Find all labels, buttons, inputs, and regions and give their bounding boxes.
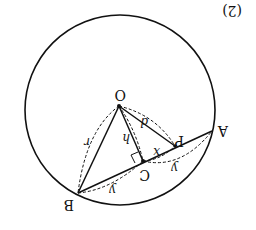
circle-chord-diagram: O A B C P r h d x y y (2) [0, 0, 256, 230]
label-p: P [175, 133, 184, 149]
label-d: d [140, 115, 148, 129]
label-h: h [122, 131, 130, 145]
label-y-bc: y [109, 183, 117, 197]
label-o: O [115, 87, 126, 103]
point-c [141, 159, 145, 163]
label-r: r [83, 135, 90, 149]
figure-number: (2) [222, 3, 242, 19]
label-y-ca: y [171, 161, 179, 175]
label-b: B [64, 197, 74, 213]
label-c: C [139, 167, 150, 183]
point-o [117, 104, 121, 108]
label-a: A [217, 123, 229, 139]
label-x: x [153, 145, 160, 159]
right-angle-marker [131, 152, 138, 163]
segment-ob [78, 106, 119, 193]
